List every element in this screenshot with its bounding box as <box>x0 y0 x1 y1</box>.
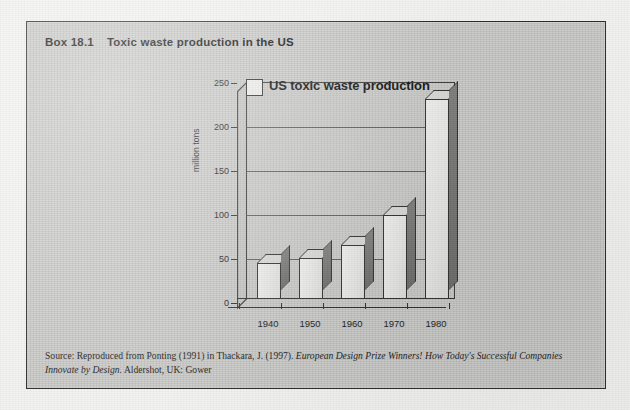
gridline <box>246 171 455 172</box>
x-tick-label: 1980 <box>413 318 459 329</box>
x-tick-label: 1970 <box>371 318 417 329</box>
box-number: Box 18.1 <box>45 36 94 48</box>
y-tick-label: 200 <box>199 122 229 132</box>
bar-front-face <box>341 245 365 299</box>
bar-1960 <box>341 245 365 299</box>
figure-box: Box 18.1Toxic waste production in the US… <box>26 21 606 389</box>
x-tick-mark <box>281 303 282 309</box>
bar-chart: million tons 250 200 150 100 50 0 <box>177 76 467 338</box>
gridline <box>246 215 455 216</box>
bar-side-face <box>449 81 458 290</box>
x-tick-label: 1950 <box>287 318 333 329</box>
y-tick-label: 100 <box>199 210 229 220</box>
scanned-page: Box 18.1Toxic waste production in the US… <box>0 0 630 410</box>
bar-1970 <box>383 215 407 299</box>
x-tick-mark <box>407 303 408 309</box>
bar-1950 <box>299 258 323 299</box>
x-tick-mark <box>365 303 366 309</box>
y-tick-label: 50 <box>199 254 229 264</box>
bar-side-face <box>365 227 374 290</box>
x-tick-mark <box>323 303 324 309</box>
y-tick-label: 250 <box>199 78 229 88</box>
bar-front-face <box>299 258 323 299</box>
x-tick-label: 1940 <box>245 318 291 329</box>
bar-front-face <box>425 99 449 299</box>
bar-front-face <box>383 215 407 299</box>
y-tick-label: 0 <box>199 298 229 308</box>
box-heading: Box 18.1Toxic waste production in the US <box>45 36 294 48</box>
x-tick-label: 1960 <box>329 318 375 329</box>
legend-swatch-icon <box>246 79 263 96</box>
gridline <box>246 127 455 128</box>
bar-1980 <box>425 99 449 299</box>
box-title: Toxic waste production in the US <box>107 36 294 48</box>
axis-floor-front <box>228 307 446 308</box>
y-tick-label: 150 <box>199 166 229 176</box>
bar-front-face <box>257 263 281 299</box>
source-prefix: Source: Reproduced from Ponting (1991) i… <box>45 350 296 361</box>
plot-depth-face <box>237 82 247 317</box>
bar-1940 <box>257 263 281 299</box>
x-tick-mark <box>449 303 450 309</box>
chart-title: US toxic waste production <box>269 78 430 93</box>
source-suffix: . Aldershot, UK: Gower <box>120 364 212 375</box>
source-note: Source: Reproduced from Ponting (1991) i… <box>45 349 589 376</box>
bar-side-face <box>407 197 416 290</box>
x-tick-mark <box>239 303 240 309</box>
plot-area <box>237 82 455 308</box>
